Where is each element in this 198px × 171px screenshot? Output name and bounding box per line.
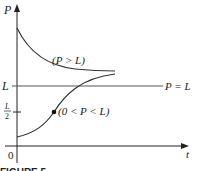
half-l-numerator: L xyxy=(4,102,10,111)
level-l-label: L xyxy=(1,79,9,93)
equilibrium-label: P = L xyxy=(164,80,191,92)
upper-curve-label: (P > L) xyxy=(52,54,85,67)
p-axis-arrow-icon xyxy=(14,4,20,12)
inflection-point xyxy=(52,110,57,115)
t-axis-label: t xyxy=(186,148,190,160)
figure-caption: FIGURE 5 xyxy=(0,167,47,171)
origin-label: 0 xyxy=(8,149,14,161)
lower-curve-label: (0 < P < L) xyxy=(58,105,110,118)
p-axis-label: P xyxy=(3,3,12,17)
logistic-solutions-diagram: P t 0 L L 2 P = L (P > L) (0 < P < L) FI… xyxy=(0,0,198,171)
half-l-denominator: 2 xyxy=(5,112,9,121)
